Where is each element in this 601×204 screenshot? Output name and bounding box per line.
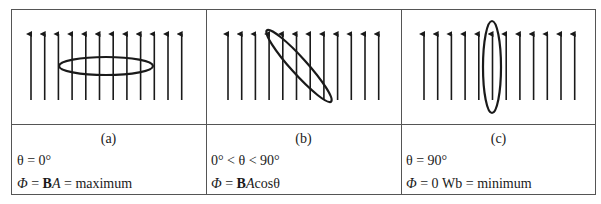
field-diagrams [0,0,601,204]
panel-c-flux: Φ = 0 Wb = minimum [406,176,532,192]
loop-a [59,57,153,75]
panel-b-label: (b) [206,131,401,147]
panel-c-condition: θ = 90° [406,153,447,169]
loop-b [261,25,337,107]
panel-b-diagram [228,34,379,100]
panel-a-flux: Φ = BA = maximum [17,176,132,192]
panel-c-label: (c) [401,131,596,147]
panel-a-diagram [31,34,182,100]
panel-a-label: (a) [11,131,206,147]
panel-b-flux: Φ = BAcosθ [211,176,280,192]
panel-b-condition: 0° < θ < 90° [211,153,280,169]
panel-a-condition: θ = 0° [17,153,51,169]
